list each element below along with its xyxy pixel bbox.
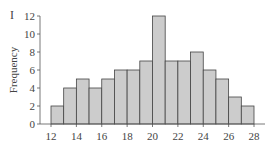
y-tick-label: 8: [30, 46, 36, 58]
histogram-chart: 024681012 121416182022242628 Frequency: [0, 0, 274, 145]
y-tick-label: 6: [30, 64, 36, 76]
y-axis-label: Frequency: [7, 46, 19, 93]
x-tick-label: 26: [223, 130, 235, 142]
histogram-bar: [114, 70, 127, 124]
histogram-bar: [216, 79, 229, 124]
y-axis-ticks: 024681012: [24, 10, 40, 130]
histogram-bar: [203, 70, 216, 124]
x-tick-label: 24: [198, 130, 210, 142]
x-tick-label: 28: [249, 130, 261, 142]
histogram-bar: [140, 61, 153, 124]
histogram-bar: [51, 106, 64, 124]
histogram-bar: [229, 97, 242, 124]
histogram-bars: [51, 16, 254, 124]
y-tick-label: 4: [30, 82, 36, 94]
x-tick-label: 16: [96, 130, 108, 142]
histogram-bar: [178, 61, 191, 124]
histogram-bar: [191, 52, 204, 124]
histogram-bar: [89, 88, 102, 124]
histogram-bar: [102, 79, 115, 124]
x-tick-label: 12: [46, 130, 57, 142]
x-tick-label: 14: [71, 130, 83, 142]
x-tick-label: 20: [147, 130, 159, 142]
y-tick-label: 2: [30, 100, 36, 112]
x-axis-ticks: 121416182022242628: [46, 124, 261, 142]
histogram-bar: [127, 70, 140, 124]
x-tick-label: 22: [172, 130, 183, 142]
histogram-bar: [241, 106, 254, 124]
histogram-bar: [64, 88, 77, 124]
y-tick-label: 10: [24, 28, 36, 40]
y-tick-label: 0: [30, 118, 36, 130]
y-tick-label: 12: [24, 10, 35, 22]
x-tick-label: 18: [122, 130, 134, 142]
histogram-bar: [76, 79, 89, 124]
histogram-bar: [165, 61, 178, 124]
histogram-bar: [153, 16, 166, 124]
